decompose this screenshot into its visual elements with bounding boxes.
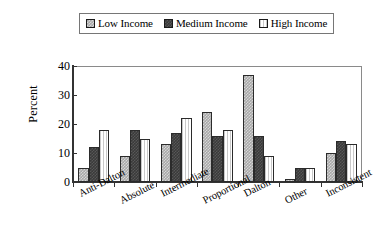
bar-low-income	[326, 153, 336, 182]
bar-low-income	[285, 179, 295, 182]
bars-layer	[0, 0, 382, 239]
bar-high-income	[305, 168, 315, 183]
bar-medium-income	[171, 133, 181, 182]
x-axis-tick-mark	[156, 183, 157, 187]
bar-low-income	[78, 168, 88, 183]
bar-medium-income	[336, 141, 346, 182]
bar-high-income	[223, 130, 233, 182]
x-axis-tick-mark	[197, 183, 198, 187]
bar-medium-income	[130, 130, 140, 182]
bar-high-income	[140, 139, 150, 183]
x-axis-tick-mark	[73, 183, 74, 187]
bar-medium-income	[295, 168, 305, 183]
bar-low-income	[161, 144, 171, 182]
bar-chart-figure: Low Income Medium Income High Income Per…	[0, 0, 382, 239]
bar-low-income	[243, 75, 253, 182]
x-axis-tick-mark	[279, 183, 280, 187]
x-axis-tick-mark	[362, 183, 363, 187]
x-axis-tick-mark	[321, 183, 322, 187]
bar-medium-income	[89, 147, 99, 182]
bar-medium-income	[212, 136, 222, 182]
x-axis-tick-mark	[114, 183, 115, 187]
bar-medium-income	[254, 136, 264, 182]
